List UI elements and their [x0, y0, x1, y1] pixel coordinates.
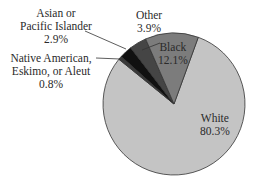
- label-asian-value: 2.9%: [16, 33, 96, 46]
- label-white-name: White: [200, 112, 230, 125]
- label-asian: Asian or Pacific Islander 2.9%: [16, 7, 96, 46]
- label-asian-name-2: Pacific Islander: [16, 20, 96, 33]
- label-black-value: 12.1%: [158, 54, 188, 67]
- label-white: White 80.3%: [200, 112, 230, 138]
- label-native-name-1: Native American,: [5, 52, 97, 65]
- label-other-value: 3.9%: [136, 22, 162, 35]
- pie-chart: Other 3.9% Asian or Pacific Islander 2.9…: [0, 0, 264, 191]
- label-asian-name-1: Asian or: [16, 7, 96, 20]
- label-other: Other 3.9%: [136, 9, 162, 35]
- label-native-value: 0.8%: [5, 78, 97, 91]
- native-leader-line: [96, 58, 120, 59]
- label-black-name: Black: [158, 41, 188, 54]
- label-black: Black 12.1%: [158, 41, 188, 67]
- label-native-name-2: Eskimo, or Aleut: [5, 65, 97, 78]
- label-native: Native American, Eskimo, or Aleut 0.8%: [5, 52, 97, 91]
- label-white-value: 80.3%: [200, 125, 230, 138]
- label-other-name: Other: [136, 9, 162, 22]
